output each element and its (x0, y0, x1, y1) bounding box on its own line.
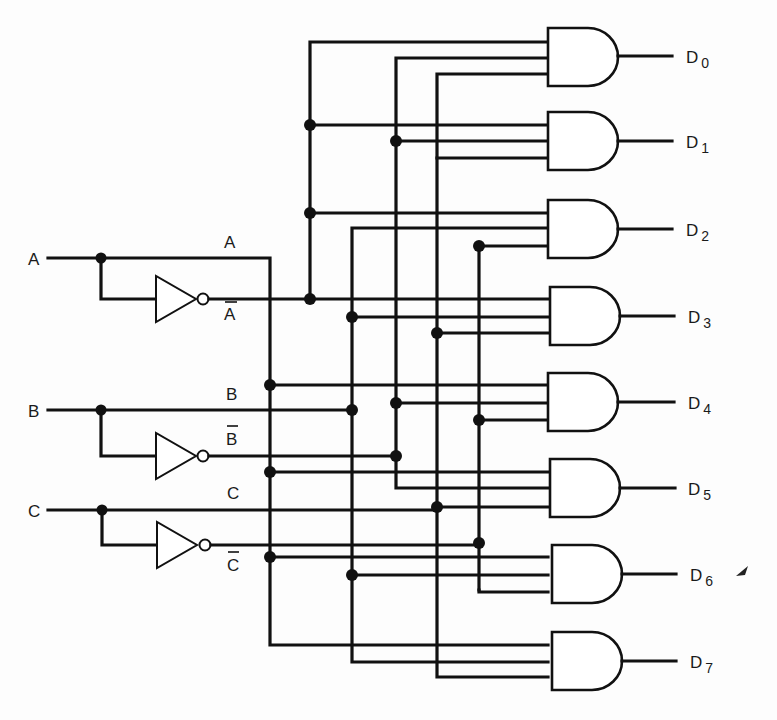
input-label-a: A (28, 250, 40, 269)
output-label-d5: D5 (688, 480, 711, 503)
and-gate-icon (548, 28, 618, 86)
inverter-c-icon (157, 522, 197, 568)
and-gate-d2 (548, 200, 672, 258)
and-gate-icon (548, 112, 618, 170)
output-labels: D0 D1 D2 D3 D4 D5 D6 D7 (686, 48, 713, 676)
and-gate-icon (550, 459, 620, 517)
input-b-section (48, 405, 396, 480)
inverter-b-icon (156, 433, 196, 479)
and-gate-d3 (550, 287, 674, 345)
output-label-d2: D2 (686, 221, 709, 244)
bus-label-a-bar: A (224, 305, 236, 324)
wire-a-to-inverter (101, 258, 156, 299)
and-gate-d0 (548, 28, 672, 86)
wire-b-to-inverter (101, 410, 156, 456)
bus-junctions (264, 119, 485, 581)
and-gate-d7 (552, 632, 676, 690)
input-label-b: B (28, 402, 39, 421)
bus-label-b-bar: B (226, 430, 237, 449)
bus-c (437, 74, 548, 677)
input-a-section (48, 253, 548, 646)
and-gate-icon (552, 545, 622, 603)
inverter-c-bubble-icon (200, 540, 211, 551)
output-label-d0: D0 (686, 48, 709, 71)
and-gate-d1 (548, 112, 672, 170)
bus-label-a: A (224, 233, 236, 252)
bus-label-c-bar: C (227, 556, 239, 575)
bus-label-c: C (227, 484, 239, 503)
and-gate-icon (550, 287, 620, 345)
and-gate-d4 (548, 373, 674, 431)
junction-dot (96, 405, 107, 416)
and-gate-icon (548, 200, 618, 258)
output-label-d4: D4 (688, 394, 711, 417)
inverter-a-icon (156, 276, 196, 322)
bus-a-bar (310, 42, 548, 299)
bus-b (352, 228, 548, 662)
bus-label-b: B (226, 385, 237, 404)
and-gate-d6 (552, 545, 676, 603)
output-label-d1: D1 (686, 133, 709, 156)
inverter-a-bubble-icon (198, 294, 209, 305)
decoder-diagram: A B C A A B B C C (0, 0, 777, 720)
output-label-d6: D6 (690, 566, 713, 589)
output-label-d7: D7 (690, 653, 713, 676)
inverter-b-bubble-icon (198, 451, 209, 462)
bus-lines (310, 42, 548, 677)
and-gate-icon (552, 632, 622, 690)
input-label-c: C (28, 502, 40, 521)
wire-c-to-inverter (102, 510, 157, 545)
output-label-d3: D3 (688, 308, 711, 331)
junction-dot (97, 505, 108, 516)
gate-input-wires (270, 125, 548, 592)
junction-dot (96, 253, 107, 264)
and-gate-d5 (550, 459, 675, 517)
stray-ink-mark (736, 566, 748, 576)
bus-b-bar (396, 58, 548, 488)
and-gate-icon (548, 373, 618, 431)
